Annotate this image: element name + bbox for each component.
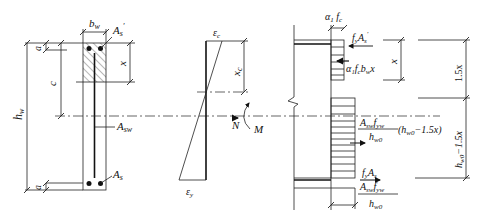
- bottom-bar-left: [87, 181, 92, 186]
- upper-dim-label: 1.5x: [453, 65, 464, 83]
- strain-bottom-label: εy: [186, 186, 194, 199]
- top-steel-label: As′: [112, 22, 125, 38]
- concrete-force-label: α₁fcbwx: [346, 63, 375, 76]
- moment-label: M: [253, 123, 264, 135]
- cover-bottom-label: a: [32, 185, 43, 190]
- bottom-steel-label: As: [112, 168, 123, 182]
- bottom-width-denominator: hw0: [369, 198, 383, 211]
- diagram-stage: bw As′ hw a a c x: [0, 0, 481, 222]
- right-dimensions: x 1.5x hw0−1.5x: [383, 37, 470, 181]
- top-steel-force-label: fyAs′: [352, 30, 369, 45]
- lower-dim-label: hw0−1.5x: [453, 131, 466, 168]
- stress-diagram: α1 fc fyAs′ α₁fcbwx Aswfyw hw0 (hw0−1.5x…: [288, 11, 442, 211]
- x-label: x: [116, 61, 128, 67]
- cover-top-label: a: [32, 46, 43, 51]
- axial-force-label: N: [231, 119, 240, 131]
- web-force-multiplier: (hw0−1.5x): [398, 124, 442, 137]
- strain-diagram: εc εy xc N M: [179, 27, 264, 199]
- bottom-steel-force-label: fyAs: [362, 167, 377, 180]
- hw-label: hw: [11, 108, 26, 120]
- c-label: c: [46, 81, 58, 86]
- top-bar-left: [87, 46, 92, 51]
- block-width-label: α1 fc: [325, 11, 343, 24]
- wall-section: bw As′ hw a a c x: [11, 17, 135, 193]
- bw-label: bw: [89, 17, 101, 31]
- x-dim-label: x: [387, 59, 399, 65]
- web-steel-label: Asw: [116, 120, 133, 134]
- web-force-numerator: Aswfyw: [359, 117, 384, 130]
- strain-top-label: εc: [213, 27, 221, 40]
- web-force-denominator: hw0: [369, 131, 383, 144]
- bottom-width-numerator: Aswfyw: [359, 181, 384, 194]
- xc-label: xc: [230, 67, 244, 77]
